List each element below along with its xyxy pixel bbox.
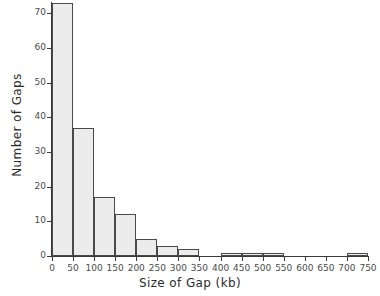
y-tick-mark bbox=[47, 83, 51, 84]
histogram-chart: 010203040506070 050100150200250300350400… bbox=[0, 0, 380, 296]
x-tick-mark bbox=[157, 257, 158, 261]
histogram-bar bbox=[242, 253, 263, 256]
x-tick-mark bbox=[94, 257, 95, 261]
y-tick-label: 10 bbox=[24, 216, 46, 225]
y-tick-label: 30 bbox=[24, 147, 46, 156]
x-tick-mark bbox=[178, 257, 179, 261]
y-tick-label: 60 bbox=[24, 43, 46, 52]
x-axis-line bbox=[51, 256, 369, 257]
histogram-bar bbox=[73, 128, 94, 256]
histogram-bar bbox=[347, 253, 368, 256]
histogram-bar bbox=[157, 246, 178, 256]
y-tick-label: 50 bbox=[24, 78, 46, 87]
y-tick-mark bbox=[47, 48, 51, 49]
histogram-bar bbox=[94, 197, 115, 256]
y-tick-mark bbox=[47, 117, 51, 118]
x-tick-mark bbox=[347, 257, 348, 261]
histogram-bar bbox=[52, 3, 73, 256]
x-tick-mark bbox=[284, 257, 285, 261]
x-axis-title: Size of Gap (kb) bbox=[0, 276, 380, 290]
y-tick-mark bbox=[47, 13, 51, 14]
histogram-bar bbox=[263, 253, 284, 256]
x-tick-mark bbox=[326, 257, 327, 261]
x-tick-mark bbox=[136, 257, 137, 261]
y-tick-mark bbox=[47, 256, 51, 257]
x-tick-mark bbox=[263, 257, 264, 261]
x-tick-label: 750 bbox=[353, 263, 380, 273]
histogram-bar bbox=[115, 214, 136, 256]
x-tick-mark bbox=[115, 257, 116, 261]
y-tick-label: 70 bbox=[24, 8, 46, 17]
x-tick-mark bbox=[73, 257, 74, 261]
x-tick-mark bbox=[368, 257, 369, 261]
histogram-bar bbox=[178, 249, 199, 256]
histogram-bar bbox=[136, 239, 157, 256]
y-tick-label: 20 bbox=[24, 182, 46, 191]
y-tick-label: 40 bbox=[24, 112, 46, 121]
y-tick-mark bbox=[47, 221, 51, 222]
x-tick-mark bbox=[305, 257, 306, 261]
x-tick-mark bbox=[242, 257, 243, 261]
y-axis-title: Number of Gaps bbox=[10, 60, 24, 190]
x-tick-mark bbox=[199, 257, 200, 261]
x-tick-mark bbox=[221, 257, 222, 261]
y-tick-mark bbox=[47, 152, 51, 153]
x-tick-mark bbox=[52, 257, 53, 261]
y-tick-label: 0 bbox=[24, 251, 46, 260]
y-tick-mark bbox=[47, 187, 51, 188]
histogram-bar bbox=[221, 253, 242, 256]
